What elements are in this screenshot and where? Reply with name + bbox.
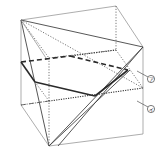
label-a: ア xyxy=(137,71,155,83)
cube-diagram: ア イ xyxy=(0,0,160,154)
label-i: イ xyxy=(137,101,155,113)
cube-visible-edges xyxy=(21,6,143,146)
label-a-text: ア xyxy=(149,76,154,83)
label-i-text: イ xyxy=(149,106,154,112)
cube-hidden-edges xyxy=(21,6,143,146)
